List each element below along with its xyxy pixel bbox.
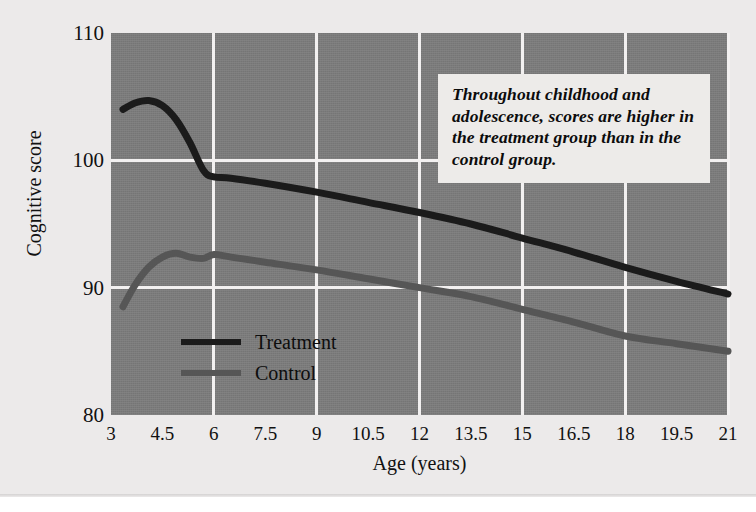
x-tick-label: 12 (410, 424, 429, 443)
y-tick-label: 110 (34, 23, 104, 44)
x-tick-label: 13.5 (454, 424, 487, 443)
y-tick-label: 80 (34, 405, 104, 426)
x-tick-label: 9 (312, 424, 322, 443)
x-axis-ticks: 34.567.5910.51213.51516.51819.521 (0, 424, 756, 450)
legend-label-control: Control (255, 363, 316, 383)
x-tick-label: 6 (209, 424, 219, 443)
chart-legend: Treatment Control (181, 326, 381, 388)
x-tick-label: 7.5 (253, 424, 277, 443)
legend-swatch-control (181, 370, 241, 376)
y-axis-title: Cognitive score (23, 94, 46, 294)
x-tick-label: 3 (106, 424, 116, 443)
legend-item-control: Control (181, 357, 381, 388)
x-tick-label: 16.5 (557, 424, 590, 443)
x-tick-label: 21 (719, 424, 738, 443)
x-tick-label: 15 (513, 424, 532, 443)
chart-page: Treatment Control Throughout childhood a… (0, 0, 756, 512)
annotation-callout: Throughout childhood and adolescence, sc… (438, 74, 710, 183)
x-tick-label: 19.5 (660, 424, 693, 443)
x-tick-label: 18 (616, 424, 635, 443)
x-tick-label: 4.5 (151, 424, 175, 443)
legend-label-treatment: Treatment (255, 332, 336, 352)
legend-item-treatment: Treatment (181, 326, 381, 357)
plot-area: Treatment Control Throughout childhood a… (111, 33, 728, 415)
legend-swatch-treatment (181, 339, 241, 345)
x-tick-label: 10.5 (351, 424, 384, 443)
x-axis-title: Age (years) (111, 452, 728, 475)
